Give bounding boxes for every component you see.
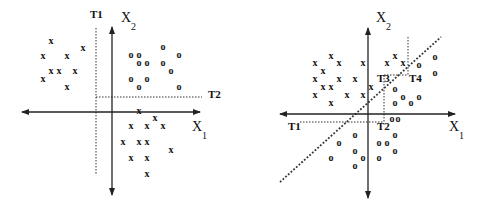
right-panel: T1 T2 T3 T4 X 2 X 1 xxxxxxxxxxxxxxxxxxoo…	[280, 10, 464, 198]
x-data-point: x	[137, 105, 142, 116]
left-t2-label: T2	[208, 88, 221, 100]
o-data-point: o	[377, 137, 382, 148]
o-data-point: o	[137, 57, 142, 68]
x-data-point: x	[129, 120, 134, 131]
x-data-point: x	[361, 57, 366, 68]
decision-tree-partition-diagram: T1 T2 X 2 X 1 xxxxxxxxxxxxxxxxxxxxxooooo…	[0, 0, 480, 209]
x-data-point: x	[385, 57, 390, 68]
left-panel: T1 T2 X 2 X 1 xxxxxxxxxxxxxxxxxxxxxooooo…	[22, 8, 221, 195]
right-t4-label: T4	[409, 72, 422, 84]
left-x2-label: X	[121, 10, 131, 25]
x-data-point: x	[153, 112, 158, 123]
right-x2-subscript: 2	[386, 21, 391, 32]
x-data-point: x	[401, 57, 406, 68]
x-data-point: x	[73, 65, 78, 76]
x-data-point: x	[361, 89, 366, 100]
o-data-point: o	[393, 83, 398, 94]
o-data-point: o	[353, 160, 358, 171]
right-t3-label: T3	[377, 72, 390, 84]
x-data-point: x	[313, 89, 318, 100]
x-data-point: x	[41, 50, 46, 61]
x-data-point: x	[329, 97, 334, 108]
left-t1-label: T1	[90, 8, 103, 20]
x-data-point: x	[329, 81, 334, 92]
right-x1-label: X	[449, 119, 459, 134]
left-x1-subscript: 1	[202, 130, 207, 141]
right-x1-subscript: 1	[459, 130, 464, 141]
left-x2-subscript: 2	[131, 21, 136, 32]
o-data-point: o	[145, 73, 150, 84]
x-data-point: x	[81, 42, 86, 53]
x-data-point: x	[321, 65, 326, 76]
o-data-point: o	[353, 145, 358, 156]
o-data-point: o	[169, 65, 174, 76]
o-data-point: o	[177, 81, 182, 92]
o-data-point: o	[396, 113, 401, 124]
x-data-point: x	[329, 50, 334, 61]
o-data-point: o	[145, 57, 150, 68]
x-data-point: x	[337, 57, 342, 68]
left-x1-label: X	[192, 119, 202, 134]
x-data-point: x	[57, 65, 62, 76]
x-data-point: x	[145, 136, 150, 147]
o-data-point: o	[329, 152, 334, 163]
o-data-point: o	[129, 73, 134, 84]
o-data-point: o	[401, 91, 406, 102]
x-data-point: x	[49, 35, 54, 46]
x-data-point: x	[393, 50, 398, 61]
o-data-point: o	[433, 67, 438, 78]
o-data-point: o	[177, 49, 182, 60]
o-data-point: o	[390, 113, 395, 124]
x-data-point: x	[353, 73, 358, 84]
x-data-point: x	[169, 144, 174, 155]
right-data-points: xxxxxxxxxxxxxxxxxxooooooooooooooooooooo	[313, 50, 438, 171]
o-data-point: o	[161, 57, 166, 68]
o-data-point: o	[409, 97, 414, 108]
o-data-point: o	[417, 91, 422, 102]
x-data-point: x	[41, 73, 46, 84]
x-data-point: x	[321, 81, 326, 92]
o-data-point: o	[137, 81, 142, 92]
x-data-point: x	[345, 89, 350, 100]
o-data-point: o	[337, 137, 342, 148]
x-data-point: x	[313, 73, 318, 84]
o-data-point: o	[417, 59, 422, 70]
x-data-point: x	[137, 136, 142, 147]
x-data-point: x	[313, 57, 318, 68]
x-data-point: x	[129, 152, 134, 163]
o-data-point: o	[161, 41, 166, 52]
x-data-point: x	[145, 120, 150, 131]
x-data-point: x	[65, 81, 70, 92]
x-data-point: x	[49, 65, 54, 76]
o-data-point: o	[129, 49, 134, 60]
o-data-point: o	[361, 152, 366, 163]
o-data-point: o	[433, 51, 438, 62]
o-data-point: o	[393, 97, 398, 108]
x-data-point: x	[369, 81, 374, 92]
o-data-point: o	[353, 129, 358, 140]
right-x2-label: X	[376, 10, 386, 25]
o-data-point: o	[393, 145, 398, 156]
x-data-point: x	[121, 136, 126, 147]
x-data-point: x	[65, 50, 70, 61]
left-data-points: xxxxxxxxxxxxxxxxxxxxxoooooooooooo	[41, 35, 182, 179]
o-data-point: o	[377, 152, 382, 163]
right-t1-label: T1	[288, 120, 301, 132]
x-data-point: x	[161, 120, 166, 131]
right-t2-label: T2	[377, 120, 390, 132]
x-data-point: x	[145, 168, 150, 179]
o-data-point: o	[393, 129, 398, 140]
x-data-point: x	[145, 152, 150, 163]
o-data-point: o	[385, 137, 390, 148]
x-data-point: x	[337, 73, 342, 84]
